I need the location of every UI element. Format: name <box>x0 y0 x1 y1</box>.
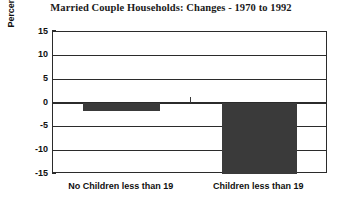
y-tick-label: 15 <box>14 27 48 36</box>
y-tick-label: -15 <box>14 169 48 178</box>
x-axis-tick-labels: No Children less than 19Children less th… <box>52 180 327 194</box>
x-tick-label: No Children less than 19 <box>52 180 190 192</box>
y-tick-label: 5 <box>14 74 48 83</box>
chart-title: Married Couple Households: Changes - 197… <box>0 2 342 13</box>
bar <box>222 103 297 174</box>
plot-area <box>52 31 327 173</box>
bar <box>83 103 160 111</box>
gridline <box>53 79 326 81</box>
y-tick-label: 10 <box>14 50 48 59</box>
zero-line-tick-icon <box>190 97 192 103</box>
x-tick-label: Children less than 19 <box>190 180 328 192</box>
y-tick-label: 0 <box>14 98 48 107</box>
y-axis-tick-labels: 151050-5-10-15 <box>12 31 48 173</box>
y-tick-label: -5 <box>14 121 48 130</box>
chart-figure: Married Couple Households: Changes - 197… <box>0 0 342 201</box>
y-tick-label: -10 <box>14 145 48 154</box>
plot-inner <box>53 32 326 172</box>
gridline <box>53 55 326 57</box>
